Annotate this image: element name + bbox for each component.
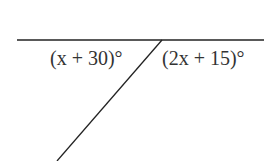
angle-label-left: (x + 30)°	[50, 47, 123, 70]
angle-label-right: (2x + 15)°	[162, 47, 245, 70]
angle-diagram: (x + 30)° (2x + 15)°	[0, 0, 271, 161]
